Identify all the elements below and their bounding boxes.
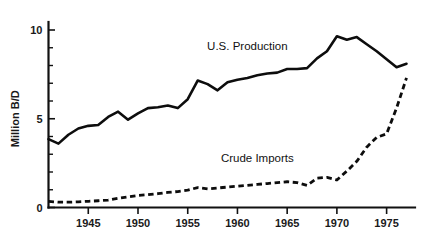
line-chart: 05101945195019551960196519701975 U.S. Pr… — [0, 0, 431, 240]
x-tick-label: 1950 — [126, 217, 150, 229]
x-tick-label: 1955 — [175, 217, 199, 229]
series-line-crude-imports — [49, 78, 407, 202]
y-tick-label: 0 — [36, 202, 42, 214]
x-tick-label: 1960 — [225, 217, 249, 229]
x-tick-label: 1970 — [325, 217, 349, 229]
chart-container: 05101945195019551960196519701975 U.S. Pr… — [0, 0, 431, 240]
x-tick-label: 1975 — [374, 217, 398, 229]
axis-ticks — [49, 30, 387, 214]
series-label-crude-imports: Crude Imports — [221, 152, 294, 164]
y-tick-label: 5 — [36, 113, 42, 125]
y-axis-title: Million B/D — [9, 90, 21, 147]
y-tick-label: 10 — [30, 24, 42, 36]
series-label-us-production: U.S. Production — [207, 40, 288, 52]
data-series — [49, 36, 407, 202]
axis-titles: Million B/D — [9, 90, 21, 147]
x-tick-label: 1965 — [275, 217, 299, 229]
series-annotations: U.S. ProductionCrude Imports — [207, 40, 294, 164]
x-tick-label: 1945 — [76, 217, 100, 229]
